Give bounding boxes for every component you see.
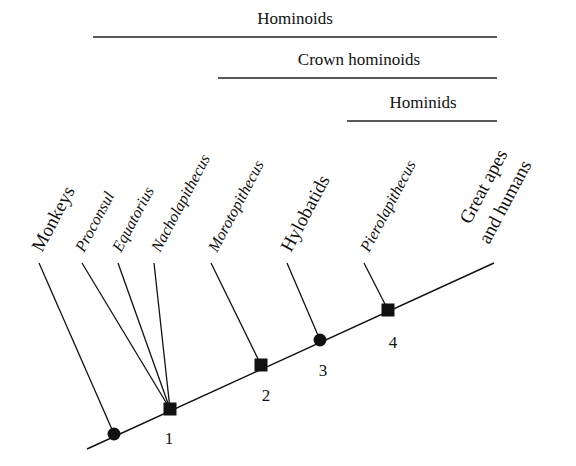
taxon-label-hylobatids: Hylobatids [276, 171, 334, 254]
node-number-3: 3 [319, 361, 328, 380]
group-hominoids: Hominoids [93, 9, 497, 37]
node-number-2: 2 [262, 386, 271, 405]
branch-monkeys [39, 263, 114, 434]
taxon-label-pierolapithecus: Pierolapithecus [356, 157, 420, 255]
group-label-hominoids: Hominoids [257, 9, 333, 28]
node-square-2 [255, 359, 268, 372]
group-crown-hominoids: Crown hominoids [218, 50, 497, 78]
node-circle-3 [314, 334, 327, 347]
node-square-1 [164, 403, 177, 416]
cladogram: Hominoids Crown hominoids Hominids 1 2 3… [0, 0, 576, 466]
branch-morotopithecus [211, 263, 261, 365]
group-label-crown-hominoids: Crown hominoids [298, 50, 420, 69]
taxon-label-nacholapithecus: Nacholapithecus [147, 151, 214, 255]
taxon-label-monkeys: Monkeys [27, 183, 79, 255]
taxon-label-morotopithecus: Morotopithecus [204, 157, 268, 255]
node-number-1: 1 [165, 429, 174, 448]
branches [39, 263, 388, 434]
node-number-4: 4 [389, 333, 398, 352]
node-square-4 [382, 304, 395, 317]
main-lineage [87, 263, 494, 449]
node-circle-0 [108, 428, 121, 441]
group-label-hominids: Hominids [389, 93, 456, 112]
branch-hylobatids [287, 263, 320, 340]
group-hominids: Hominids [347, 93, 497, 121]
branch-pierolapithecus [364, 263, 388, 310]
